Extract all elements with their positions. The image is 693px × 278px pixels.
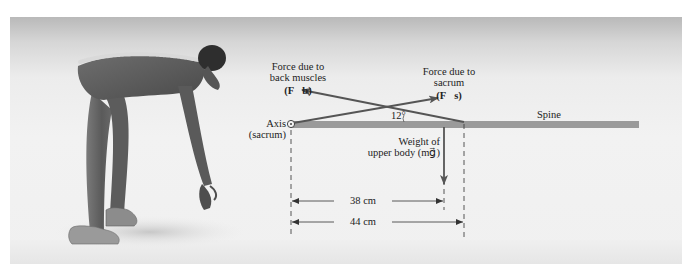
symbol-fb: (F⃗b) [256,85,340,96]
label-line: sacrum [414,77,484,88]
dimension-label-38cm: 38 cm [334,195,392,206]
label-spine: Spine [537,109,561,120]
label-line: (sacrum) [240,129,286,140]
label-line: upper body (mg⃗) [356,147,440,158]
label-line: Force due to [414,66,484,77]
diagram-canvas [0,0,693,278]
dimension-label-44cm: 44 cm [334,216,392,227]
label-axis: Axis (sacrum) [240,118,286,140]
label-weight: Weight of upper body (mg⃗) [356,136,440,158]
pivot-circle-icon [287,120,294,127]
label-line: Force due to [256,61,340,72]
label-line: Axis [240,118,286,129]
label-line: Weight of [356,136,440,147]
label-angle: 12° [391,110,406,121]
spine-bar [291,121,639,128]
symbol-fs: (F⃗s) [414,90,484,101]
label-force-sacrum: Force due to sacrum (F⃗s) [414,66,484,101]
label-line: back muscles [256,72,340,83]
label-force-back-muscles: Force due to back muscles (F⃗b) [256,61,340,96]
bending-person-illustration [55,45,245,248]
